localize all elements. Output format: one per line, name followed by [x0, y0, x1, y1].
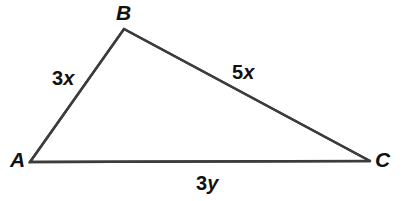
- side-label-bc-variable: x: [243, 61, 254, 83]
- side-label-ac-variable: y: [207, 172, 218, 194]
- side-label-ac: 3y: [196, 173, 218, 193]
- vertex-label-c: C: [375, 149, 390, 170]
- vertex-label-b: B: [116, 2, 131, 23]
- side-label-ab: 3x: [52, 68, 74, 88]
- triangle-side-ac: [30, 161, 370, 162]
- side-label-bc: 5x: [232, 62, 254, 82]
- vertex-label-a: A: [10, 149, 25, 170]
- triangle-figure: A B C 3x 5x 3y: [0, 0, 403, 201]
- triangle-svg: [0, 0, 403, 201]
- side-label-bc-coefficient: 5: [232, 61, 243, 83]
- side-label-ac-coefficient: 3: [196, 172, 207, 194]
- triangle-outline: [30, 29, 370, 162]
- side-label-ab-coefficient: 3: [52, 67, 63, 89]
- side-label-ab-variable: x: [63, 67, 74, 89]
